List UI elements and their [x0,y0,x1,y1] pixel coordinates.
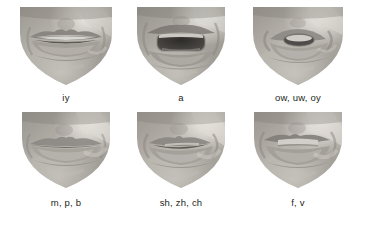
mouth-photo-iy [20,7,112,85]
viseme-label-sh-zh-ch: sh, zh, ch [135,197,227,208]
mouth-photo-a [135,7,227,85]
mouth-photo-sh-zh-ch [135,112,227,190]
viseme-panel-iy: iy [20,7,112,103]
mouth-photo-ow-uw-oy [252,7,344,85]
viseme-label-a: a [135,92,227,103]
viseme-label-f-v: f, v [252,197,344,208]
viseme-panel-ow-uw-oy: ow, uw, oy [252,7,344,103]
viseme-label-iy: iy [20,92,112,103]
viseme-panel-sh-zh-ch: sh, zh, ch [135,112,227,208]
viseme-panel-m-p-b: m, p, b [20,112,112,208]
mouth-photo-m-p-b [20,112,112,190]
viseme-figure: iy [0,0,374,242]
viseme-label-ow-uw-oy: ow, uw, oy [252,92,344,103]
viseme-panel-f-v: f, v [252,112,344,208]
mouth-photo-f-v [252,112,344,190]
viseme-panel-a: a [135,7,227,103]
viseme-label-m-p-b: m, p, b [20,197,112,208]
